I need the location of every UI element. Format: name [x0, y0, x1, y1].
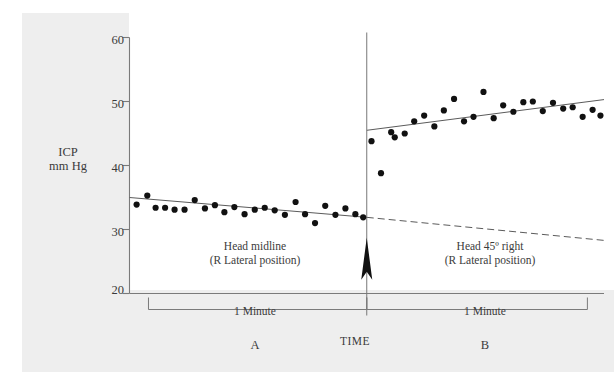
data-point — [461, 118, 467, 124]
data-point — [402, 130, 408, 136]
data-point — [262, 205, 268, 211]
data-point — [181, 207, 187, 213]
y-axis-title-line1: ICP — [42, 146, 94, 159]
data-point — [342, 205, 348, 211]
data-point — [241, 211, 247, 217]
data-point — [580, 114, 586, 120]
bracket-a-label: 1 Minute — [180, 305, 330, 317]
data-point — [431, 123, 437, 129]
trendline-regression-a-extrapolated — [367, 217, 604, 240]
figure-container: 60 50 40 30 20 ICP mm Hg Head midline (R… — [0, 0, 614, 383]
y-tick-label-40: 40 — [98, 161, 124, 176]
data-point — [500, 102, 506, 108]
panel-a-caption-line1: Head midline — [180, 239, 330, 253]
data-point — [202, 205, 208, 211]
data-point — [510, 109, 516, 115]
data-point — [451, 96, 457, 102]
y-tick-label-60: 60 — [98, 33, 124, 48]
data-point — [388, 129, 394, 135]
data-point — [282, 212, 288, 218]
panel-b-caption-line2: (R Lateral position) — [410, 253, 570, 267]
panel-b-caption-line1: Head 45º right — [410, 239, 570, 253]
data-point — [302, 211, 308, 217]
data-point — [540, 108, 546, 114]
data-point — [332, 212, 338, 218]
data-point — [360, 214, 366, 220]
y-tick-label-20: 20 — [98, 283, 124, 298]
data-point — [221, 209, 227, 215]
trendline-regression-b — [367, 100, 604, 131]
data-point — [368, 138, 374, 144]
data-point — [480, 89, 486, 95]
series-a — [134, 192, 367, 226]
data-point — [570, 104, 576, 110]
data-point — [470, 114, 476, 120]
panel-b-letter: B — [410, 338, 560, 353]
data-point — [378, 170, 384, 176]
data-point — [272, 207, 278, 213]
data-point — [192, 197, 198, 203]
data-point — [411, 118, 417, 124]
data-point — [491, 115, 497, 121]
data-point — [134, 201, 140, 207]
bracket-b-label: 1 Minute — [410, 305, 560, 317]
panel-a-letter: A — [180, 338, 330, 353]
data-point — [252, 207, 258, 213]
data-point — [152, 205, 158, 211]
data-point — [530, 98, 536, 104]
data-point — [441, 107, 447, 113]
data-point — [520, 99, 526, 105]
data-point — [144, 192, 150, 198]
data-point — [322, 203, 328, 209]
data-point — [597, 112, 603, 118]
data-point — [421, 112, 427, 118]
data-point — [392, 134, 398, 140]
y-tick-label-30: 30 — [98, 225, 124, 240]
data-point — [231, 204, 237, 210]
data-point — [590, 107, 596, 113]
series-b — [368, 89, 603, 176]
y-axis-title-line2: mm Hg — [42, 160, 94, 173]
panel-a-caption-line2: (R Lateral position) — [180, 253, 330, 267]
data-point — [560, 105, 566, 111]
y-tick-label-50: 50 — [98, 97, 124, 112]
data-point — [550, 100, 556, 106]
data-point — [212, 202, 218, 208]
data-point — [312, 220, 318, 226]
data-point — [352, 211, 358, 217]
data-point — [292, 199, 298, 205]
x-axis-title: TIME — [320, 335, 390, 347]
data-point — [171, 207, 177, 213]
data-point — [162, 205, 168, 211]
chart-canvas — [0, 0, 614, 383]
